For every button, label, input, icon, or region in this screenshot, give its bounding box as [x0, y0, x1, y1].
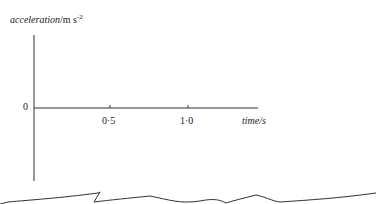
- x-tick-label-0-5: 0·5: [102, 115, 115, 126]
- y-axis-label: acceleration/m s-2: [10, 13, 83, 25]
- chart-canvas: [0, 0, 376, 204]
- x-tick-label-1-0: 1·0: [180, 115, 193, 126]
- y-tick-label-0: 0: [23, 101, 28, 112]
- torn-edge: [0, 192, 376, 204]
- x-axis-label: time/s: [242, 115, 266, 126]
